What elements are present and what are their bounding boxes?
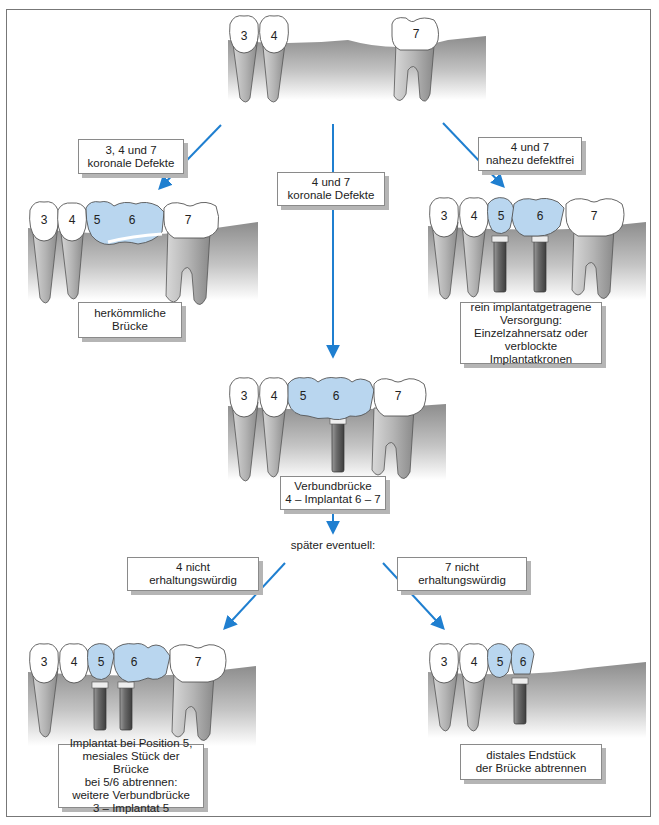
- diagram-artwork: 3 4 7 3 4 5 6 7 3 4 5 6: [0, 0, 659, 825]
- condition-box-right: 4 und 7 nahezu defektfrei: [478, 137, 582, 171]
- svg-text:5: 5: [300, 389, 307, 403]
- svg-text:5: 5: [94, 213, 101, 227]
- svg-text:4: 4: [271, 29, 278, 43]
- svg-text:4: 4: [471, 209, 478, 223]
- result-left-text: herkömmliche Brücke: [94, 307, 166, 333]
- svg-text:7: 7: [185, 213, 192, 227]
- scene-implant-supported: 3 4 5 6 7: [428, 198, 646, 300]
- svg-text:3: 3: [441, 655, 448, 669]
- scene-implant-position-5: 3 4 5 6 7: [28, 644, 256, 747]
- later-label-text: später eventuell:: [291, 539, 375, 551]
- scene-distal-piece-removed: 3 4 5 6: [428, 644, 646, 738]
- svg-text:7: 7: [395, 389, 402, 403]
- svg-text:3: 3: [41, 213, 48, 227]
- result-box-conventional-bridge: herkömmliche Brücke: [78, 302, 182, 338]
- result-center-text: Verbundbrücke 4 – Implantat 6 – 7: [285, 480, 380, 506]
- result-box-implant-position-5: Implantat bei Position 5, mesiales Stück…: [58, 744, 204, 808]
- later-left-result-text: Implantat bei Position 5, mesiales Stück…: [63, 737, 199, 815]
- condition-box-left: 3, 4 und 7 koronale Defekte: [78, 139, 184, 174]
- svg-text:3: 3: [441, 209, 448, 223]
- svg-text:6: 6: [537, 209, 544, 223]
- later-right-condition-text: 7 nicht erhaltungswürdig: [402, 561, 522, 587]
- condition-box-center: 4 und 7 koronale Defekte: [277, 172, 385, 206]
- svg-text:4: 4: [69, 213, 76, 227]
- svg-text:7: 7: [413, 27, 420, 41]
- svg-text:3: 3: [41, 655, 48, 669]
- svg-text:6: 6: [520, 655, 527, 669]
- later-right-result-text: distales Endstück der Brücke abtrennen: [476, 749, 587, 775]
- svg-text:5: 5: [98, 655, 105, 669]
- svg-text:5: 5: [498, 209, 505, 223]
- scene-composite-bridge: 3 4 5 6 7: [228, 378, 446, 482]
- scene-top: 3 4 7: [228, 16, 486, 102]
- svg-text:3: 3: [241, 29, 248, 43]
- later-label: später eventuell:: [283, 539, 383, 551]
- condition-box-later-left: 4 nicht erhaltungswürdig: [127, 557, 259, 591]
- result-box-distal-piece-removed: distales Endstück der Brücke abtrennen: [460, 744, 602, 780]
- condition-box-later-right: 7 nicht erhaltungswürdig: [397, 557, 527, 591]
- svg-text:3: 3: [241, 389, 248, 403]
- result-box-composite-bridge: Verbundbrücke 4 – Implantat 6 – 7: [280, 476, 386, 510]
- svg-text:4: 4: [271, 389, 278, 403]
- condition-center-text: 4 und 7 koronale Defekte: [288, 176, 375, 202]
- svg-text:5: 5: [497, 655, 504, 669]
- svg-text:6: 6: [129, 213, 136, 227]
- result-box-implant-supported: rein implantatgetragene Versorgung: Einz…: [460, 302, 602, 364]
- later-left-condition-text: 4 nicht erhaltungswürdig: [132, 561, 254, 587]
- condition-right-text: 4 und 7 nahezu defektfrei: [486, 141, 574, 167]
- condition-left-text: 3, 4 und 7 koronale Defekte: [88, 144, 175, 170]
- svg-text:4: 4: [71, 655, 78, 669]
- scene-conventional-bridge: 3 4 5 6 7: [28, 202, 258, 305]
- svg-text:6: 6: [333, 389, 340, 403]
- svg-text:6: 6: [131, 655, 138, 669]
- svg-text:4: 4: [471, 655, 478, 669]
- svg-text:7: 7: [195, 655, 202, 669]
- svg-text:7: 7: [591, 209, 598, 223]
- result-right-text: rein implantatgetragene Versorgung: Einz…: [465, 301, 597, 366]
